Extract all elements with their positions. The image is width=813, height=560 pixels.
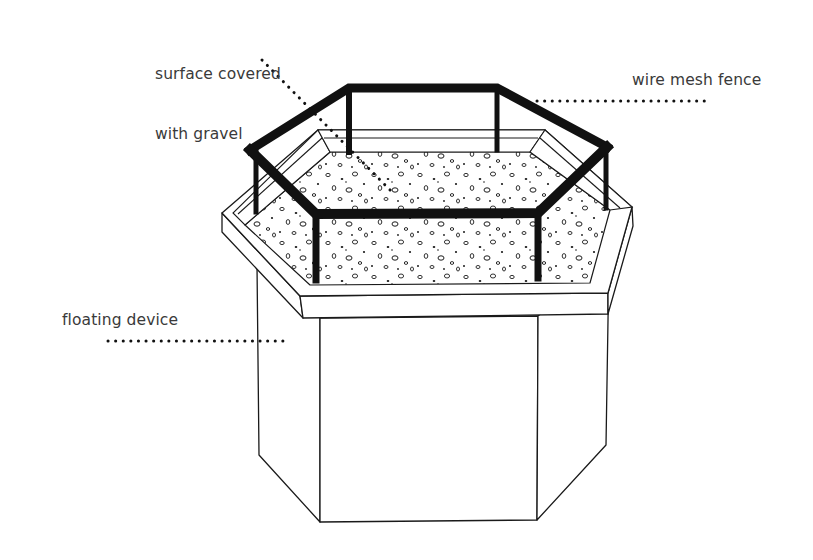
rim-inner-back	[318, 130, 545, 152]
label-surface-line2: with gravel	[155, 124, 281, 144]
label-surface-covered-with-gravel: surface covered with gravel	[155, 24, 281, 164]
body-front-panel	[320, 316, 538, 522]
label-surface-line1: surface covered	[155, 64, 281, 84]
label-wire-mesh-fence: wire mesh fence	[632, 70, 761, 90]
label-floating-device: floating device	[62, 310, 178, 330]
rim-front-face	[300, 293, 608, 318]
